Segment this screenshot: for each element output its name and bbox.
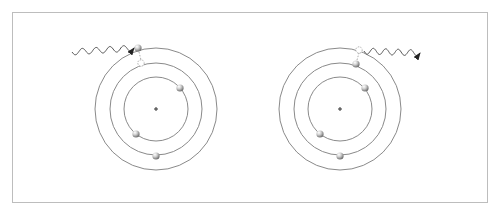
electron	[134, 44, 141, 51]
nucleus-icon	[154, 107, 158, 111]
atom-emission	[279, 47, 420, 170]
electron	[316, 130, 323, 137]
nucleus-icon	[338, 107, 342, 111]
atom-diagram	[0, 0, 501, 213]
photon-wave-incoming	[72, 46, 134, 55]
electron	[176, 84, 183, 91]
electron	[352, 60, 359, 67]
transition-path	[139, 52, 141, 60]
electron	[361, 84, 368, 91]
electron-vacancy	[356, 47, 362, 53]
photon-wave-outgoing	[364, 48, 420, 56]
transition-path	[357, 53, 359, 60]
electron	[336, 152, 343, 159]
electron	[132, 130, 139, 137]
atom-absorption	[72, 44, 217, 170]
electron-vacancy	[138, 60, 144, 66]
electron	[152, 152, 159, 159]
